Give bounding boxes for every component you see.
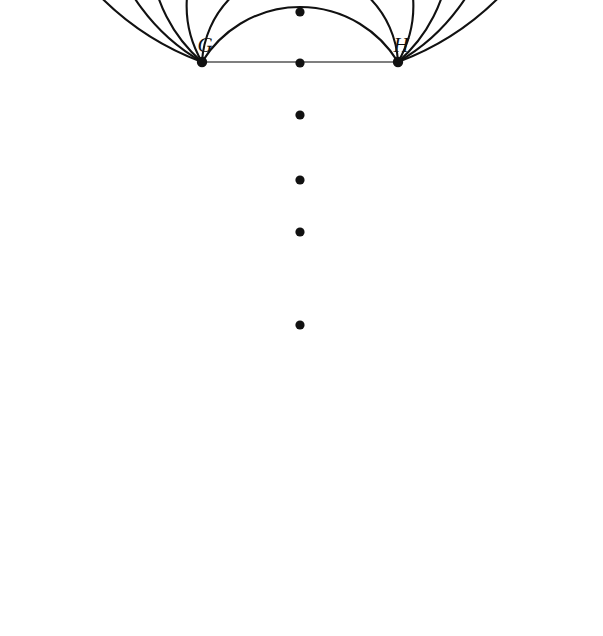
point-h-dot [393, 57, 403, 67]
center-dot-d5 [295, 320, 304, 329]
center-dot-d1 [295, 58, 304, 67]
point-g-label: G [197, 33, 212, 57]
center-dot-d0 [295, 7, 304, 16]
figure-root: G H [0, 0, 603, 636]
center-dot-d2 [295, 110, 304, 119]
center-dot-d4 [295, 227, 304, 236]
point-g-dot [197, 57, 207, 67]
center-dot-d3 [295, 175, 304, 184]
center-dots-group [295, 7, 304, 329]
point-h-label: H [392, 33, 410, 57]
geometry-diagram: G H [0, 0, 603, 636]
